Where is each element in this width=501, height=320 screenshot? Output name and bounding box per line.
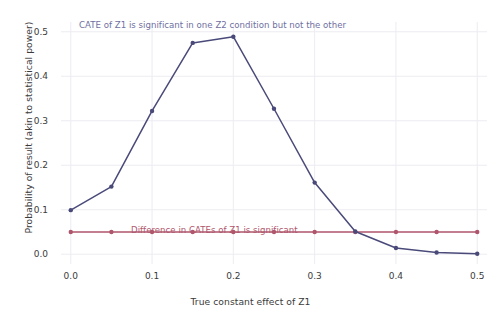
data-point-marker [150,109,154,113]
x-axis-tick-label: 0.1 [132,271,172,281]
x-axis-tick-labels: 0.00.10.20.30.40.5 [0,271,501,287]
x-axis-tick-label: 0.3 [295,271,335,281]
data-point-marker [191,41,195,45]
data-point-marker [69,230,73,234]
x-axis-title: True constant effect of Z1 [0,296,501,307]
chart-figure: Probability of result (akin to statistic… [0,0,501,320]
annotation-red-label: Difference in CATEs of Z1 is significant [131,225,298,235]
data-point-marker [312,180,316,184]
x-axis-tick-label: 0.5 [457,271,497,281]
data-point-marker [312,230,316,234]
data-point-marker [475,230,479,234]
series-blue [69,34,480,255]
data-point-marker [434,250,438,254]
x-axis-tick-label: 0.0 [51,271,91,281]
data-point-marker [394,246,398,250]
x-axis-tick-label: 0.4 [376,271,416,281]
data-point-marker [231,34,235,38]
data-point-marker [394,230,398,234]
data-point-marker [272,107,276,111]
data-point-marker [69,208,73,212]
data-point-marker [434,230,438,234]
annotation-blue-label: CATE of Z1 is significant in one Z2 cond… [79,20,346,30]
x-axis-tick-label: 0.2 [213,271,253,281]
series-line [71,37,477,254]
data-point-marker [475,252,479,256]
data-point-marker [109,184,113,188]
data-point-marker [109,230,113,234]
data-point-marker [353,229,357,233]
